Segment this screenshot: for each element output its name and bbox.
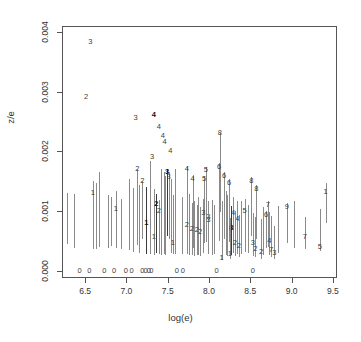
data-point-label: 2 xyxy=(84,94,88,102)
data-point-label: 1 xyxy=(324,189,328,197)
data-point-label: 2 xyxy=(190,225,194,233)
error-bar xyxy=(150,161,151,254)
data-point-label: 3 xyxy=(167,174,171,182)
data-point-label: 3 xyxy=(201,210,205,218)
data-point-label: 6 xyxy=(222,173,226,181)
error-bar xyxy=(121,199,122,249)
baseline-zero-label: 0 xyxy=(112,267,116,275)
y-axis-tick-label: 0.000 xyxy=(40,260,50,281)
data-point-label: 4 xyxy=(157,123,161,131)
baseline-zero-label: 0 xyxy=(181,267,185,275)
data-point-label: 5 xyxy=(202,176,206,184)
x-axis-tick-label: 9.5 xyxy=(327,286,339,296)
error-bar xyxy=(99,172,100,247)
error-bar xyxy=(224,172,225,239)
data-point-label: 3 xyxy=(134,114,138,122)
x-axis-tick xyxy=(250,278,251,283)
data-point-label: 1 xyxy=(144,219,148,227)
error-bar xyxy=(67,193,68,244)
error-bar xyxy=(133,188,134,251)
plot-frame: 3234444438223344556668876971511111222222… xyxy=(62,26,337,278)
data-point-label: 5 xyxy=(204,167,208,175)
baseline-zero-label: 0 xyxy=(251,267,255,275)
data-point-label: 1 xyxy=(171,239,175,247)
data-point-label: 4 xyxy=(185,165,189,173)
data-point-label: 2 xyxy=(237,242,241,250)
error-bar xyxy=(116,191,117,248)
data-point-label: 2 xyxy=(185,222,189,230)
y-axis-tick-label: 0.002 xyxy=(40,141,50,162)
data-point-label: 5 xyxy=(243,207,247,215)
error-bar xyxy=(182,197,183,254)
error-bar xyxy=(208,206,209,254)
error-bar xyxy=(278,206,279,253)
x-axis-label: log(e) xyxy=(0,312,361,323)
x-axis-tick-label: 7.5 xyxy=(162,286,174,296)
x-axis-tick-label: 6.5 xyxy=(79,286,91,296)
baseline-zero-label: 0 xyxy=(77,267,81,275)
data-point-label: 2 xyxy=(135,165,139,173)
error-bar xyxy=(203,199,204,253)
error-bar xyxy=(96,183,97,249)
baseline-zero-label: 0 xyxy=(215,267,219,275)
data-point-label: 3 xyxy=(206,217,210,225)
error-bar xyxy=(239,215,240,258)
data-point-label: 4 xyxy=(162,138,166,146)
y-axis-label: z/e xyxy=(5,78,16,158)
data-point-label: 1 xyxy=(228,250,232,258)
x-axis-tick-label: 8.0 xyxy=(203,286,215,296)
data-point-label: 4 xyxy=(191,176,195,184)
data-point-label: 8 xyxy=(218,130,222,138)
scatter-plot-figure: z/e log(e) 6.57.07.58.08.59.09.50.0000.0… xyxy=(0,0,361,342)
data-point-label: 8 xyxy=(254,186,258,194)
data-point-label: 9 xyxy=(285,204,289,212)
data-point-label: 5 xyxy=(318,243,322,251)
x-axis-tick-label: 8.5 xyxy=(244,286,256,296)
x-axis-tick xyxy=(168,278,169,283)
data-point-label: 1 xyxy=(91,189,95,197)
x-axis-tick xyxy=(85,278,86,283)
error-bar xyxy=(142,181,143,239)
baseline-zero-label: 0 xyxy=(149,267,153,275)
error-bar xyxy=(212,200,213,255)
error-bar xyxy=(214,205,215,254)
data-point-label: 1 xyxy=(114,205,118,213)
data-point-label: 3 xyxy=(150,153,154,161)
x-axis-tick xyxy=(292,278,293,283)
data-point-label: 2 xyxy=(157,207,161,215)
data-point-label: 2 xyxy=(253,245,257,253)
data-point-label: 7 xyxy=(266,201,270,209)
data-point-label: 7 xyxy=(303,233,307,241)
error-bar xyxy=(161,169,162,255)
data-point-label: 4 xyxy=(168,147,172,155)
x-axis-tick-label: 9.0 xyxy=(286,286,298,296)
error-bar xyxy=(108,195,109,248)
baseline-zero-label: 0 xyxy=(129,267,133,275)
data-point-label: 2 xyxy=(259,248,263,256)
error-bar xyxy=(74,194,75,248)
x-axis-tick xyxy=(209,278,210,283)
error-bar xyxy=(137,169,138,245)
baseline-zero-label: 0 xyxy=(175,267,179,275)
data-point-label: 6 xyxy=(264,211,268,219)
x-axis-tick xyxy=(333,278,334,283)
x-axis-tick xyxy=(126,278,127,283)
y-axis-tick-label: 0.001 xyxy=(40,200,50,221)
error-bar xyxy=(129,179,130,250)
y-axis-tick-label: 0.003 xyxy=(40,81,50,102)
baseline-zero-label: 0 xyxy=(124,267,128,275)
error-bar xyxy=(219,163,220,241)
x-axis-tick-label: 7.0 xyxy=(120,286,132,296)
data-point-label: 6 xyxy=(217,163,221,171)
y-axis-label-wrapper: z/e xyxy=(0,112,58,132)
data-point-label: 3 xyxy=(88,38,92,46)
data-point-label: 2 xyxy=(140,177,144,185)
error-bar xyxy=(235,211,236,256)
error-bar xyxy=(139,185,140,252)
y-axis-tick-label: 0.004 xyxy=(40,21,50,42)
data-layer: 3234444438223344556668876971511111222222… xyxy=(63,27,336,277)
data-point-label: 1 xyxy=(219,254,223,262)
error-bar xyxy=(248,205,249,253)
data-point-label: 6 xyxy=(227,180,231,188)
baseline-zero-label: 0 xyxy=(87,267,91,275)
